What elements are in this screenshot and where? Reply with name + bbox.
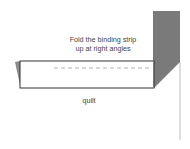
instruction-line-2: up at right angles [55, 45, 151, 54]
binding-strip-rect [20, 61, 154, 88]
quilt-label: quilt [74, 97, 104, 106]
folded-binding-strip [153, 11, 180, 88]
binding-fold-diagram [0, 0, 190, 149]
strip-fold-corner [153, 61, 154, 88]
fold-instruction: Fold the binding strip up at right angle… [55, 36, 151, 53]
strip-end-triangle [15, 61, 20, 85]
